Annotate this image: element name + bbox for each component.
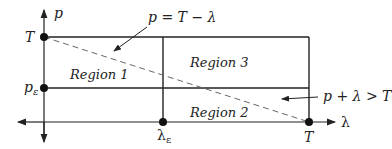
y-axis-label: p	[54, 5, 63, 21]
point-lambda-e	[159, 118, 167, 126]
line-eq-arrow	[114, 27, 147, 51]
point-T-x	[305, 118, 313, 126]
inequality-label: p + λ > T	[323, 88, 392, 104]
point-pe	[40, 84, 48, 92]
x-axis-label: λ	[341, 114, 350, 130]
tick-pe: pε	[24, 79, 38, 97]
region-3-label: Region 3	[189, 55, 249, 70]
tick-lambda-e: λε	[157, 127, 171, 145]
tick-T-x: T	[304, 129, 315, 145]
point-T-y	[40, 33, 48, 41]
region-diagram: p λ T pε λε T Region 1 Region 3 Region 2…	[0, 0, 392, 149]
tick-T-y: T	[25, 29, 36, 45]
region-1-label: Region 1	[69, 67, 129, 82]
inequality-arrow	[282, 97, 318, 99]
region-2-label: Region 2	[189, 105, 249, 120]
line-equation: p = T − λ	[148, 9, 216, 25]
